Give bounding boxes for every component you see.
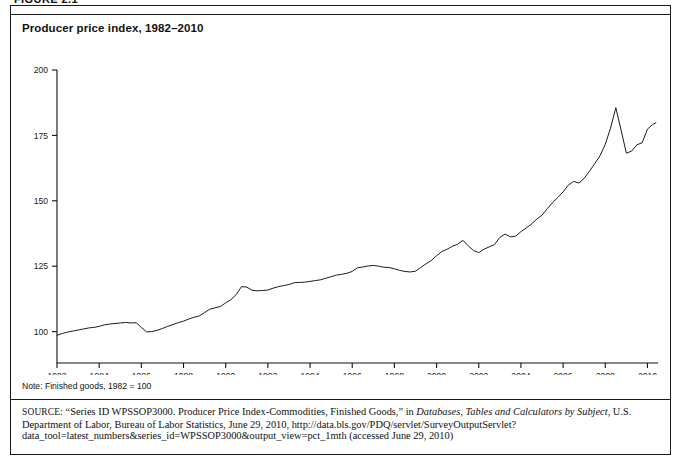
svg-text:1986: 1986 <box>132 371 151 375</box>
figure-number: FIGURE 2.1 <box>14 0 78 3</box>
svg-text:1990: 1990 <box>216 371 235 375</box>
line-chart: 1001251501752001982198419861988199019921… <box>10 50 671 375</box>
svg-text:1994: 1994 <box>300 371 319 375</box>
svg-text:2000: 2000 <box>427 371 446 375</box>
svg-text:2004: 2004 <box>511 371 530 375</box>
chart-plot-area: 1001251501752001982198419861988199019921… <box>10 50 671 375</box>
chart-title: Producer price index, 1982–2010 <box>22 22 203 34</box>
svg-text:1988: 1988 <box>174 371 193 375</box>
source-prefix: SOURCE: <box>22 407 63 417</box>
svg-text:2008: 2008 <box>596 371 615 375</box>
svg-text:1984: 1984 <box>90 371 109 375</box>
svg-text:125: 125 <box>34 261 49 271</box>
chart-ticks <box>52 70 647 368</box>
chart-series <box>57 108 656 336</box>
svg-text:1982: 1982 <box>47 371 66 375</box>
source-block: SOURCE: “Series ID WPSSOP3000. Producer … <box>22 406 652 442</box>
svg-text:2002: 2002 <box>469 371 488 375</box>
source-italic-title: Databases, Tables and Calculators by Sub… <box>416 406 607 417</box>
figure-header-rule <box>11 14 670 15</box>
chart-note: Note: Finished goods, 1982 = 100 <box>22 381 151 391</box>
svg-text:200: 200 <box>34 65 49 75</box>
source-divider <box>11 399 670 400</box>
figure-root: FIGURE 2.1 Producer price index, 1982–20… <box>0 0 688 466</box>
svg-text:2006: 2006 <box>554 371 573 375</box>
svg-text:1996: 1996 <box>343 371 362 375</box>
svg-text:175: 175 <box>34 131 49 141</box>
series-line <box>57 108 656 336</box>
chart-tick-labels: 1001251501752001982198419861988199019921… <box>34 65 658 375</box>
svg-text:1992: 1992 <box>258 371 277 375</box>
svg-text:100: 100 <box>34 327 49 337</box>
svg-text:150: 150 <box>34 196 49 206</box>
svg-text:1998: 1998 <box>385 371 404 375</box>
chart-axes <box>57 70 658 363</box>
svg-text:2010: 2010 <box>638 371 657 375</box>
source-part-1: “Series ID WPSSOP3000. Producer Price In… <box>63 406 416 417</box>
